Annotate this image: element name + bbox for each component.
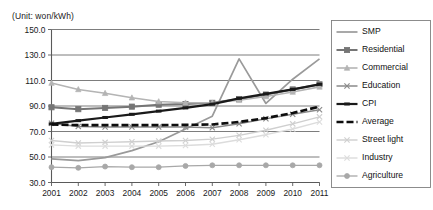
data-point-marker	[317, 83, 323, 86]
legend-label: Commercial	[362, 62, 408, 72]
chart-container: (Unit: won/kWh) 150.0130.0110.090.070.05…	[0, 0, 433, 210]
legend-item[interactable]: Industry	[337, 152, 394, 162]
data-point-marker	[102, 116, 108, 119]
legend-item[interactable]: CPI	[337, 98, 377, 108]
data-point-marker	[236, 97, 242, 100]
legend-label: Residential	[362, 44, 405, 54]
x-tick-label: 2008	[230, 188, 249, 198]
x-tick-label: 2006	[176, 188, 195, 198]
y-tick-label: 130.0	[25, 50, 46, 60]
data-point-marker	[210, 163, 215, 168]
data-point-marker	[290, 88, 296, 91]
legend-item[interactable]: Agriculture	[337, 170, 404, 180]
data-point-marker	[290, 163, 295, 168]
data-point-marker	[344, 103, 350, 106]
legend-label: Agriculture	[362, 170, 403, 180]
data-point-marker	[345, 174, 350, 179]
legend-label: Education	[362, 80, 400, 90]
x-tick-label: 2011	[310, 188, 328, 198]
data-point-marker	[129, 165, 134, 170]
x-tick-label: 2002	[69, 188, 88, 198]
x-tick-label: 2005	[149, 188, 168, 198]
series-line	[52, 117, 320, 143]
data-point-marker	[49, 105, 54, 110]
legend-item[interactable]: SMP	[337, 26, 381, 36]
data-point-marker	[183, 163, 188, 168]
data-point-marker	[103, 164, 108, 169]
chart-series	[49, 163, 322, 171]
data-point-marker	[344, 47, 349, 52]
data-point-marker	[183, 106, 189, 109]
y-tick-label: 90.0	[29, 101, 46, 111]
data-point-marker	[76, 165, 81, 170]
data-point-marker	[317, 163, 322, 168]
x-tick-label: 2004	[123, 188, 142, 198]
series-group	[49, 59, 323, 171]
data-point-marker	[237, 163, 242, 168]
data-point-marker	[129, 113, 135, 116]
x-axis: 2001200220032004200520062007200820092010…	[42, 183, 329, 198]
data-point-marker	[76, 107, 81, 112]
y-axis: 150.0130.0110.090.070.050.030.0	[25, 25, 52, 188]
legend-item[interactable]: Residential	[337, 44, 405, 54]
x-tick-label: 2001	[42, 188, 61, 198]
line-chart: 150.0130.0110.090.070.050.030.0 20012002…	[0, 0, 433, 210]
y-tick-label: 70.0	[29, 127, 46, 137]
legend-label: SMP	[362, 26, 381, 36]
x-tick-label: 2010	[283, 188, 302, 198]
data-point-marker	[76, 119, 82, 122]
x-tick-label: 2003	[96, 188, 115, 198]
legend-label: Average	[362, 116, 394, 126]
legend-item[interactable]: Street light	[337, 134, 404, 144]
data-point-marker	[129, 104, 134, 109]
data-point-marker	[156, 110, 162, 113]
legend-item[interactable]: Education	[337, 80, 401, 90]
legend-item[interactable]: Commercial	[337, 62, 408, 72]
y-tick-label: 110.0	[25, 76, 46, 86]
y-tick-label: 30.0	[29, 178, 46, 188]
chart-legend: SMPResidentialCommercialEducationCPIAver…	[332, 21, 431, 188]
data-point-marker	[263, 163, 268, 168]
data-point-marker	[156, 165, 161, 170]
y-tick-label: 150.0	[25, 25, 46, 35]
x-tick-label: 2009	[257, 188, 276, 198]
y-tick-label: 50.0	[29, 152, 46, 162]
legend-label: Industry	[362, 152, 393, 162]
data-point-marker	[49, 165, 54, 170]
data-point-marker	[263, 92, 269, 95]
legend-label: CPI	[362, 98, 376, 108]
data-point-marker	[210, 103, 216, 106]
legend-item[interactable]: Average	[337, 116, 395, 126]
x-tick-label: 2007	[203, 188, 222, 198]
data-point-marker	[103, 105, 108, 110]
legend-label: Street light	[362, 134, 404, 144]
